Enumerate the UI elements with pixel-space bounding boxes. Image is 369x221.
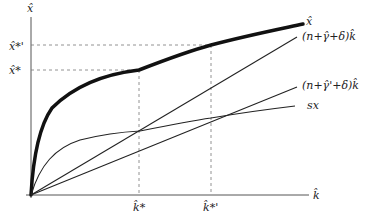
x-star-prime-label: x̂*' <box>9 40 24 53</box>
break-even-high-label: (n+γ̂+δ)k̂ <box>302 29 356 43</box>
y-axis-label: x̂ <box>27 2 34 15</box>
k-star-label: k̂* <box>133 200 146 214</box>
output-curve-label: x̂ <box>306 15 313 28</box>
saving-curve <box>31 106 295 195</box>
solow-diagram: x̂ k̂ x̂*' x̂* k̂* k̂*' x̂ (n+γ̂+δ)k̂ (n… <box>0 0 369 221</box>
break-even-low-label: (n+γ̂'+δ)k̂ <box>302 78 359 92</box>
k-star-prime-label: k̂*' <box>203 200 218 214</box>
saving-curve-label: sx <box>307 99 320 112</box>
output-curve <box>31 24 303 195</box>
x-axis-label: k̂ <box>313 188 320 202</box>
break-even-line-low <box>31 87 297 195</box>
x-star-label: x̂* <box>9 64 21 77</box>
